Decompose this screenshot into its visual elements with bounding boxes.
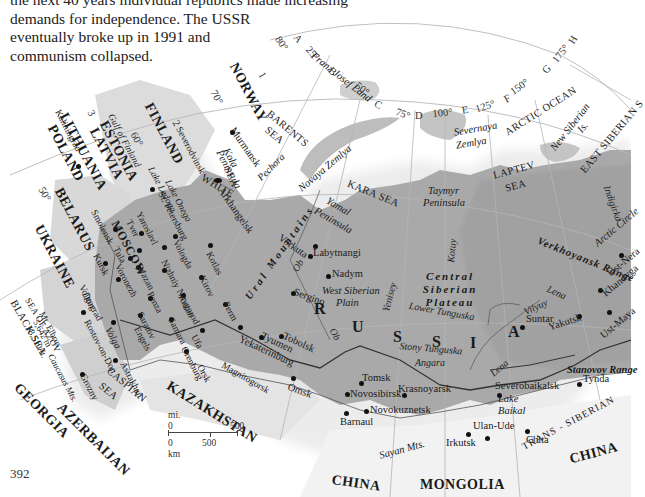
scale-km-zero: 0 [168, 438, 173, 448]
label-city-tynda: Tynda [583, 373, 609, 384]
label-city-novosibirsk: Novosibirsk [350, 388, 401, 399]
city-dot-volgograd [81, 310, 86, 315]
label-west-siberian-1: West Siberian [322, 285, 380, 296]
label-city-nadym: Nadym [332, 268, 363, 279]
label-russia-s1: S [393, 328, 402, 346]
label-russia-u: U [352, 318, 364, 336]
label-city-krasnoyarsk: Krasnoyarsk [398, 383, 451, 394]
scale-km-mid: 500 [202, 438, 216, 448]
intro-line-3: eventually broke up in 1991 and [10, 28, 310, 47]
label-west-siberian-2: Plain [336, 297, 359, 308]
label-city-severobaikalsk: Severobaikalsk [495, 380, 559, 391]
city-dot-st-petersburg [150, 187, 155, 192]
scale-mi-unit: mi. [168, 410, 180, 420]
grid-lon-100: 100° [432, 106, 453, 119]
grid-meridian-175 [570, 65, 631, 100]
csp-line-1: Central [426, 270, 474, 282]
intro-line-1: the next 40 years individual republics m… [10, 0, 310, 10]
city-dot-ust-maya [607, 310, 612, 315]
city-dot-tynda [577, 382, 582, 387]
city-dot-arkhangelsk [214, 178, 222, 183]
city-dot-omsk [291, 376, 296, 381]
city-dot-suntar [520, 325, 525, 330]
label-river-kotuy: Kotuy [445, 238, 458, 263]
intro-line-2: demands for independence. The USSR [10, 10, 310, 29]
label-lake-baikal-2: Baikal [498, 405, 525, 416]
city-dot-rostov [111, 320, 116, 325]
label-russia-a: A [508, 323, 520, 341]
label-mongolia: MONGOLIA [420, 477, 505, 493]
grid-col-d: D [415, 110, 423, 121]
page-number: 392 [10, 466, 30, 482]
city-dot-kaliningrad [76, 164, 81, 169]
scale-km-unit: km [168, 449, 180, 459]
city-dot-ufa [200, 328, 205, 333]
intro-paragraph: the next 40 years individual republics m… [10, 0, 310, 65]
city-dot-yaroslavl [162, 245, 167, 250]
label-city-irkutsk: Irkutsk [446, 437, 476, 448]
city-dot-kotlas [208, 243, 213, 248]
city-dot-nadym [326, 274, 331, 279]
city-dot-yekaterinburg [238, 325, 243, 330]
label-city-barnaul: Barnaul [340, 416, 373, 427]
label-taymyr-2: Peninsula [423, 197, 465, 208]
label-russia-i: I [470, 334, 476, 352]
city-dot-ulan-ude [485, 436, 490, 441]
label-city-tomsk: Tomsk [362, 372, 390, 383]
label-taymyr-1: Taymyr [428, 185, 459, 196]
label-city-ulan-ude: Ulan-Ude [473, 420, 514, 431]
city-dot-severobaikalsk [497, 393, 502, 398]
label-russia-s2: S [432, 333, 441, 351]
intro-line-4: communism collapsed. [10, 47, 310, 66]
scale-line [168, 432, 238, 437]
csp-line-2: Siberian [423, 283, 478, 295]
label-city-labytnangi: Labytnangi [313, 247, 361, 258]
label-city-chita: Chita [526, 434, 549, 445]
label-city-novokuznetsk: Novokuznetsk [370, 404, 431, 415]
label-river-angara: Angara [415, 357, 445, 368]
city-dot-novokuznetsk [364, 409, 369, 414]
